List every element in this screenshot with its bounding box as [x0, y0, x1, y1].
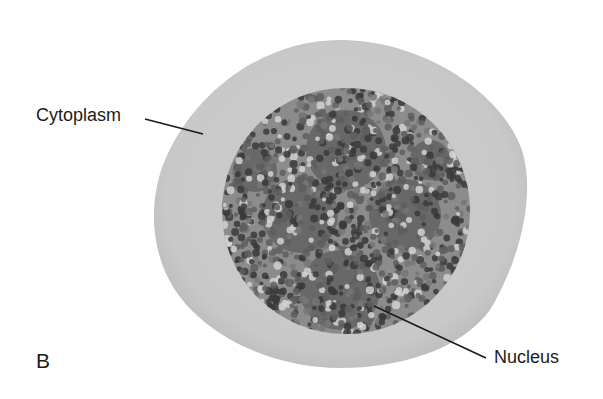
panel-letter: B [36, 350, 50, 371]
cell-diagram [0, 0, 603, 399]
nucleus-label: Nucleus [494, 348, 559, 366]
cytoplasm-label: Cytoplasm [36, 106, 121, 124]
